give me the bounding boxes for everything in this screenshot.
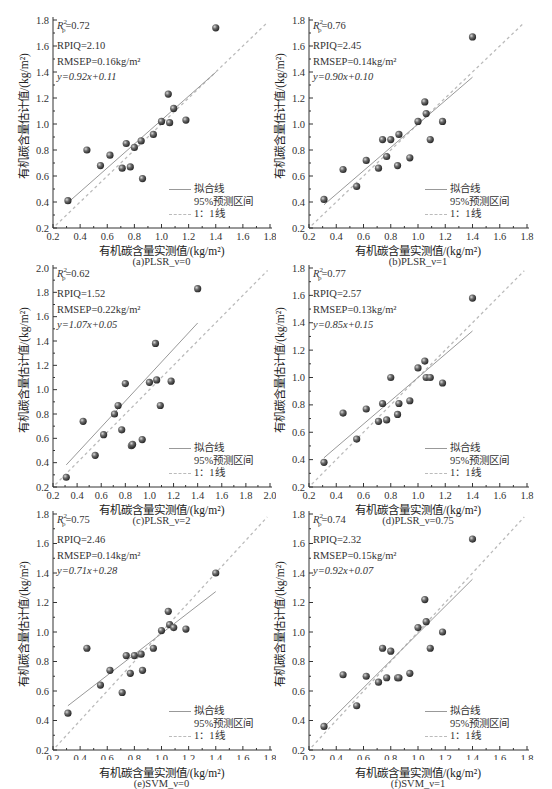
prediction-interval-swatch: [169, 460, 191, 461]
data-point: [406, 397, 413, 404]
chart-panel-d: 0.20.40.60.81.01.21.41.61.80.20.40.60.81…: [276, 255, 552, 510]
fit-line-swatch: [425, 711, 447, 712]
data-point: [379, 645, 386, 652]
data-point: [97, 682, 104, 689]
x-tick-label: 0.4: [330, 490, 344, 501]
rmsep-value: RMSEP=0.15kg/m²: [313, 548, 396, 564]
data-point: [395, 400, 402, 407]
one-to-one-swatch: [169, 473, 191, 474]
x-tick-label: 0.6: [357, 231, 370, 242]
data-point: [212, 24, 219, 31]
data-point: [387, 374, 394, 381]
x-tick-label: 1.0: [143, 490, 156, 501]
data-point: [83, 146, 90, 153]
y-tick-label: 1.8: [36, 15, 49, 26]
chart-panel-b: 0.20.40.60.81.01.21.41.61.80.20.40.60.81…: [276, 0, 552, 255]
y-axis-label: 有机碳含量估计值/(kg/m²): [271, 307, 287, 433]
legend-item-fit: 拟合线: [169, 705, 253, 718]
data-point: [363, 405, 370, 412]
y-tick-label: 0.4: [292, 454, 306, 465]
y-tick-label: 0.2: [292, 223, 305, 234]
data-point: [119, 689, 126, 696]
one-to-one-swatch: [425, 473, 447, 474]
legend-item-fit: 拟合线: [425, 183, 509, 196]
legend-item-1to1: 1：1线: [169, 467, 253, 480]
y-tick-label: 0.8: [36, 656, 49, 667]
data-point: [414, 118, 421, 125]
x-tick-label: 1.6: [493, 753, 506, 760]
legend-item-1to1: 1：1线: [425, 208, 509, 221]
data-point: [394, 162, 401, 169]
regression-equation: y=0.90x+0.10: [313, 69, 396, 85]
data-point: [414, 624, 421, 631]
data-point: [83, 645, 90, 652]
y-tick-label: 1.4: [36, 336, 50, 347]
data-point: [383, 674, 390, 681]
y-tick-label: 1.4: [36, 568, 50, 579]
prediction-interval-swatch: [425, 723, 447, 724]
data-point: [100, 431, 107, 438]
data-point: [387, 648, 394, 655]
one-to-one-swatch: [169, 214, 191, 215]
data-point: [439, 118, 446, 125]
x-tick-label: 1.6: [236, 753, 249, 760]
x-tick-label: 0.4: [74, 753, 88, 760]
legend: 拟合线95%预测区间1：1线: [169, 705, 253, 743]
data-point: [469, 33, 476, 40]
x-tick-label: 0.8: [384, 490, 397, 501]
data-point: [469, 535, 476, 542]
y-axis-label: 有机碳含量估计值/(kg/m²): [15, 307, 31, 433]
regression-equation: y=0.85x+0.15: [313, 317, 396, 333]
data-point: [106, 152, 113, 159]
y-tick-label: 1.6: [292, 290, 305, 301]
data-point: [127, 163, 134, 170]
y-tick-label: 0.8: [292, 145, 305, 156]
data-point: [395, 674, 402, 681]
y-tick-label: 0.2: [36, 482, 49, 493]
one-to-one-swatch: [169, 736, 191, 737]
stats-annotation: R2p=0.77RPIQ=2.57RMSEP=0.13kg/m²y=0.85x+…: [313, 263, 396, 333]
data-point: [320, 723, 327, 730]
x-tick-label: 1.2: [439, 753, 452, 760]
stats-annotation: R2p=0.76RPIQ=2.45RMSEP=0.14kg/m²y=0.90x+…: [313, 15, 396, 85]
x-tick-label: 1.6: [493, 231, 506, 242]
x-tick-label: 0.8: [119, 490, 132, 501]
prediction-interval-swatch: [425, 201, 447, 202]
y-tick-label: 1.6: [36, 41, 49, 52]
data-point: [63, 474, 70, 481]
data-point: [383, 416, 390, 423]
data-point: [166, 119, 173, 126]
data-point: [395, 131, 402, 138]
y-axis-label: 有机碳含量估计值/(kg/m²): [15, 53, 31, 179]
data-point: [320, 196, 327, 203]
chart-panel-f: 0.20.40.60.81.01.21.41.61.80.20.40.60.81…: [276, 505, 552, 760]
y-tick-label: 0.6: [292, 686, 305, 697]
data-point: [139, 667, 146, 674]
data-point: [152, 340, 159, 347]
fit-line-swatch: [169, 711, 191, 712]
r2-value: R2p=0.62: [57, 263, 140, 286]
data-point: [421, 98, 428, 105]
y-tick-label: 1.6: [292, 538, 305, 549]
data-point: [427, 374, 434, 381]
data-point: [423, 110, 430, 117]
data-point: [212, 569, 219, 576]
stats-annotation: R2p=0.72RPIQ=2.10RMSEP=0.16kg/m²y=0.92x+…: [57, 15, 140, 85]
data-point: [469, 295, 476, 302]
x-tick-label: 1.2: [439, 231, 452, 242]
data-point: [379, 136, 386, 143]
data-point: [106, 667, 113, 674]
rpiq-value: RPIQ=2.32: [313, 532, 396, 548]
y-tick-label: 1.6: [292, 41, 305, 52]
y-tick-label: 0.2: [36, 223, 49, 234]
data-point: [111, 410, 118, 417]
data-point: [363, 673, 370, 680]
data-point: [182, 117, 189, 124]
legend-item-fit: 拟合线: [425, 442, 509, 455]
y-tick-label: 0.4: [36, 197, 50, 208]
legend: 拟合线95%预测区间1：1线: [425, 705, 509, 743]
x-tick-label: 0.6: [101, 753, 114, 760]
chart-panel-c: 0.20.40.60.81.01.21.41.61.82.00.20.40.60…: [0, 255, 276, 510]
rpiq-value: RPIQ=2.10: [57, 38, 140, 54]
data-point: [158, 627, 165, 634]
